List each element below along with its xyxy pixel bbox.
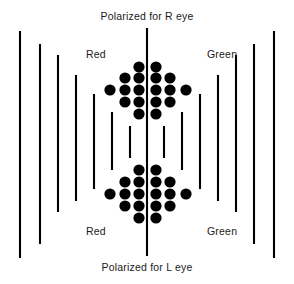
cluster-dot — [104, 188, 115, 199]
label-green-top: Green — [207, 49, 237, 60]
cluster-dot — [150, 61, 161, 72]
cluster-dot — [150, 212, 161, 223]
cluster-dot — [119, 84, 130, 95]
cluster-dot — [133, 72, 144, 83]
cluster-dot — [119, 96, 130, 107]
cluster-dot — [150, 96, 161, 107]
title-bottom-polarized-l-eye: Polarized for L eye — [102, 262, 193, 273]
polarization-stereogram-figure: Polarized for R eye Red Green Red Green … — [0, 0, 294, 284]
cluster-dot — [150, 84, 161, 95]
cluster-dot — [133, 176, 144, 187]
cluster-dot — [164, 188, 175, 199]
label-red-top: Red — [86, 49, 106, 60]
label-red-bottom: Red — [86, 226, 106, 237]
cluster-dot — [119, 72, 130, 83]
cluster-dot — [150, 72, 161, 83]
cluster-dot — [164, 84, 175, 95]
cluster-dot — [133, 200, 144, 211]
figure-canvas — [0, 0, 294, 284]
cluster-dot — [119, 188, 130, 199]
cluster-dot — [119, 176, 130, 187]
cluster-dot — [164, 96, 175, 107]
cluster-dot — [133, 108, 144, 119]
cluster-dot — [150, 188, 161, 199]
cluster-dot — [119, 200, 130, 211]
cluster-dot — [180, 188, 191, 199]
cluster-dot — [133, 188, 144, 199]
cluster-dot — [150, 176, 161, 187]
cluster-dot — [150, 164, 161, 175]
cluster-dot — [164, 200, 175, 211]
cluster-dot — [133, 96, 144, 107]
cluster-dot — [180, 84, 191, 95]
cluster-dot — [164, 72, 175, 83]
title-top-polarized-r-eye: Polarized for R eye — [100, 11, 193, 22]
cluster-dot — [150, 108, 161, 119]
cluster-dot — [133, 212, 144, 223]
cluster-dot — [150, 200, 161, 211]
cluster-dot — [133, 84, 144, 95]
label-green-bottom: Green — [207, 226, 237, 237]
cluster-dot — [164, 176, 175, 187]
cluster-dot — [104, 84, 115, 95]
cluster-dot — [133, 164, 144, 175]
cluster-dot — [133, 61, 144, 72]
